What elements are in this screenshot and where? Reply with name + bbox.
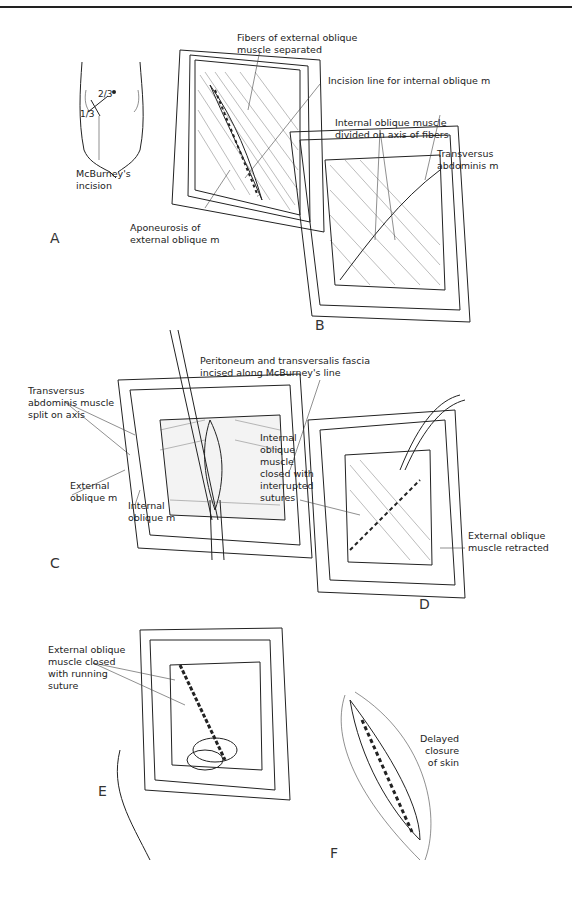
- panel-label-d: D: [419, 596, 430, 612]
- panel-label-b: B: [315, 317, 325, 333]
- transversus-split-label: Transversus abdominis muscle split on ax…: [28, 385, 114, 421]
- aponeurosis-label: Aponeurosis of external oblique m: [130, 222, 219, 246]
- external-oblique-retracted-label: External oblique muscle retracted: [468, 530, 549, 554]
- panel-f-skin: [341, 692, 431, 860]
- fraction-two-thirds: 2/3: [98, 88, 112, 100]
- panel-label-e: E: [98, 783, 107, 799]
- panel-d-wound: [308, 395, 465, 598]
- external-oblique-c-label: External oblique m: [70, 480, 117, 504]
- internal-oblique-divided-label: Internal oblique muscle divided on axis …: [335, 117, 449, 141]
- internal-oblique-c-label: Internal oblique m: [128, 500, 175, 524]
- external-oblique-closed-label: External oblique muscle closed with runn…: [48, 644, 125, 692]
- panel-label-f: F: [330, 845, 338, 861]
- panel-e-wound: [117, 628, 290, 860]
- internal-oblique-closed-label: Internal oblique muscle closed with inte…: [260, 432, 314, 504]
- panel-b-wound-1: [172, 50, 324, 232]
- mcburney-incision-label: McBurney's incision: [76, 168, 131, 192]
- transversus-abdominis-label: Transversus abdominis m: [437, 148, 498, 172]
- incision-line-label: Incision line for internal oblique m: [328, 75, 490, 87]
- peritoneum-label: Peritoneum and transversalis fascia inci…: [200, 355, 370, 379]
- fibers-external-oblique-label: Fibers of external oblique muscle separa…: [237, 32, 357, 56]
- panel-a-torso: [80, 62, 143, 178]
- panel-label-c: C: [50, 555, 60, 571]
- fraction-one-third: 1/3: [80, 108, 94, 120]
- panel-label-a: A: [50, 230, 60, 246]
- delayed-closure-label: Delayed closure of skin: [420, 733, 459, 769]
